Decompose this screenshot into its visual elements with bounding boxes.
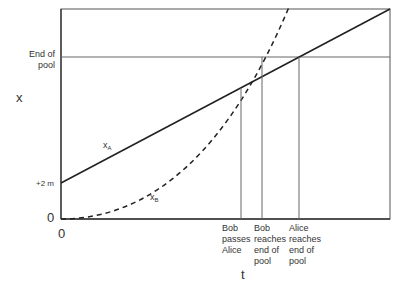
position-time-diagram (0, 0, 410, 287)
annotation-bob-passes-alice: BobpassesAlice (222, 223, 251, 256)
alice-line-xa (61, 9, 390, 183)
annotation-bob-reaches-end: Bobreachesend ofpool (254, 223, 286, 267)
end-of-pool-label: End ofpool (29, 49, 55, 71)
plus2-label: +2 m (36, 178, 54, 189)
zero-t-label: 0 (58, 226, 65, 241)
annotation-alice-reaches-end: Alicereachesend ofpool (289, 223, 321, 267)
x-axis-label: x (16, 90, 23, 105)
xa-label: xA (103, 140, 112, 154)
bob-curve-xb (61, 7, 289, 219)
t-axis-label: t (241, 267, 245, 282)
xb-label: xB (150, 192, 159, 206)
zero-y-label: 0 (47, 210, 54, 225)
plot-frame (61, 9, 390, 219)
